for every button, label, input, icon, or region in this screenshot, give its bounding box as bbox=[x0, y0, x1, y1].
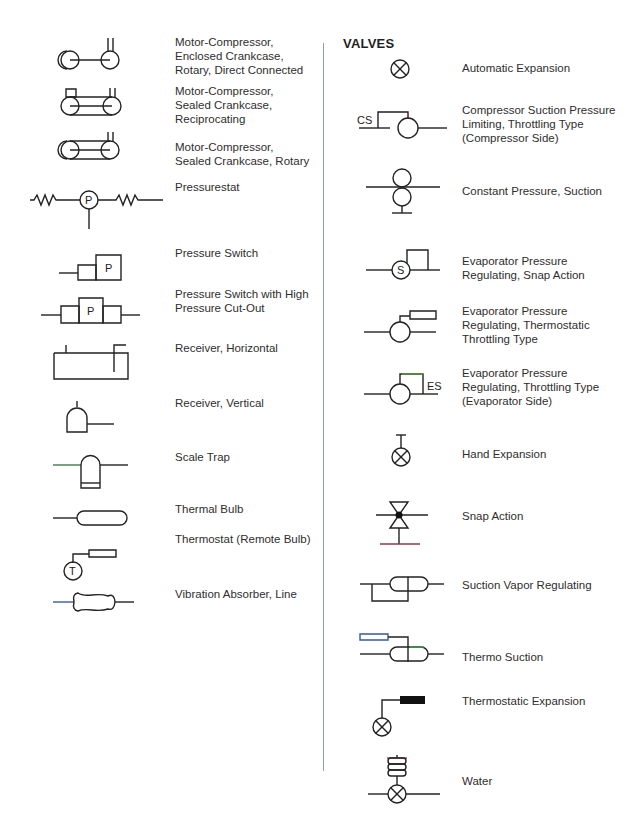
item-label: Compressor Suction Pressure Limiting, Th… bbox=[462, 103, 615, 145]
hand-expansion-valve-icon bbox=[389, 433, 413, 469]
item-label: Automatic Expansion bbox=[462, 61, 570, 75]
thermal-bulb-icon bbox=[52, 508, 132, 530]
svg-text:ES: ES bbox=[427, 380, 442, 392]
svg-text:P: P bbox=[87, 305, 94, 317]
evaporator-pressure-snap-action-icon: S bbox=[364, 246, 444, 282]
thermo-suction-valve-icon bbox=[358, 631, 448, 667]
item-label: Suction Vapor Regulating bbox=[462, 578, 592, 592]
motor-compressor-sealed-reciprocating-icon bbox=[60, 86, 130, 122]
motor-compressor-sealed-rotary-icon bbox=[58, 130, 128, 166]
section-title-valves: VALVES bbox=[343, 36, 394, 51]
item-label: Evaporator Pressure Regulating, Snap Act… bbox=[462, 254, 585, 282]
item-label: Thermostatic Expansion bbox=[462, 694, 585, 708]
pressurestat-icon: P bbox=[28, 187, 168, 235]
vibration-absorber-icon bbox=[52, 588, 137, 616]
item-label: Scale Trap bbox=[175, 450, 230, 464]
svg-text:S: S bbox=[397, 264, 404, 276]
item-label: Constant Pressure, Suction bbox=[462, 184, 602, 198]
item-label: Motor-Compressor, Enclosed Crankcase, Ro… bbox=[175, 35, 303, 77]
evaporator-pressure-thermostatic-icon bbox=[362, 306, 442, 346]
item-label: Thermo Suction bbox=[462, 650, 543, 664]
scale-trap-icon bbox=[52, 452, 132, 492]
item-label: Evaporator Pressure Regulating, Thermost… bbox=[462, 304, 590, 346]
compressor-suction-pressure-valve-icon: CS bbox=[355, 106, 455, 146]
suction-vapor-regulating-icon bbox=[358, 572, 448, 608]
svg-text:P: P bbox=[105, 262, 112, 274]
svg-text:CS: CS bbox=[357, 114, 372, 126]
column-divider bbox=[323, 43, 324, 771]
thermostatic-expansion-valve-icon bbox=[372, 694, 432, 734]
pressure-switch-icon: P bbox=[58, 246, 128, 282]
item-label: Motor-Compressor, Sealed Crankcase, Reci… bbox=[175, 84, 273, 126]
item-label: Thermostat (Remote Bulb) bbox=[175, 532, 311, 546]
item-label: Evaporator Pressure Regulating, Throttli… bbox=[462, 366, 599, 408]
item-label: Pressurestat bbox=[175, 180, 240, 194]
receiver-horizontal-icon bbox=[52, 342, 132, 384]
item-label: Water bbox=[462, 774, 492, 788]
svg-text:T: T bbox=[69, 565, 76, 577]
item-label: Pressure Switch bbox=[175, 246, 258, 260]
item-label: Snap Action bbox=[462, 509, 523, 523]
item-label: Receiver, Vertical bbox=[175, 396, 264, 410]
pressure-switch-high-cutout-icon: P bbox=[40, 294, 145, 330]
item-label: Motor-Compressor, Sealed Crankcase, Rota… bbox=[175, 140, 309, 168]
evaporator-pressure-throttling-icon: ES bbox=[362, 368, 447, 408]
thermostat-remote-bulb-icon: T bbox=[60, 544, 130, 584]
automatic-expansion-valve-icon bbox=[389, 58, 411, 80]
cropped-page-header bbox=[120, 0, 520, 4]
item-label: Thermal Bulb bbox=[175, 502, 243, 516]
receiver-vertical-icon bbox=[64, 400, 124, 436]
constant-pressure-suction-valve-icon bbox=[364, 168, 444, 220]
item-label: Vibration Absorber, Line bbox=[175, 587, 297, 601]
snap-action-valve-icon bbox=[374, 500, 434, 548]
svg-text:P: P bbox=[85, 194, 92, 206]
water-valve-icon bbox=[366, 754, 446, 810]
item-label: Receiver, Horizontal bbox=[175, 341, 278, 355]
item-label: Hand Expansion bbox=[462, 447, 546, 461]
motor-compressor-enclosed-rotary-direct-icon bbox=[58, 36, 128, 72]
item-label: Pressure Switch with High Pressure Cut-O… bbox=[175, 287, 309, 315]
